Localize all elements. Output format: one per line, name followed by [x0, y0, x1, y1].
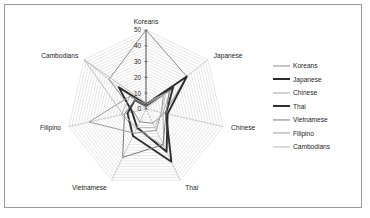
legend-item-filipino[interactable]: Filipino	[273, 128, 357, 139]
axis-label-koreans: Koreans	[134, 18, 159, 25]
radar-chart-area: 01020304050 KoreansJapaneseChineseThaiVi…	[5, 5, 287, 207]
legend-item-cambodians[interactable]: Cambodians	[273, 141, 357, 152]
radar-chart-svg: 01020304050 KoreansJapaneseChineseThaiVi…	[5, 5, 287, 207]
legend-item-label: Filipino	[293, 129, 314, 138]
axis-label-filipino: Filipino	[40, 124, 61, 132]
legend-line-icon	[273, 142, 290, 152]
legend-line-icon	[273, 88, 290, 98]
legend-item-thai[interactable]: Thai	[273, 101, 357, 112]
legend-item-label: Cambodians	[293, 142, 330, 151]
radial-tick-label: 40	[134, 42, 142, 49]
legend-item-vietnamese[interactable]: Vietnamese	[273, 114, 357, 125]
axis-label-cambodians: Cambodians	[41, 52, 79, 59]
legend-line-icon	[273, 61, 290, 71]
radial-tick-label: 50	[134, 26, 142, 33]
legend-line-icon	[273, 115, 290, 125]
legend-line-icon	[273, 101, 290, 111]
radial-tick-label: 10	[134, 90, 142, 97]
radial-tick-label: 20	[134, 74, 142, 81]
legend-item-label: Koreans	[293, 61, 318, 70]
screenshot-root: 01020304050 KoreansJapaneseChineseThaiVi…	[0, 0, 370, 218]
axis-label-thai: Thai	[185, 184, 198, 191]
legend-item-label: Japanese	[293, 75, 322, 84]
radial-tick-label: 30	[134, 58, 142, 65]
axis-label-chinese: Chinese	[231, 124, 256, 131]
legend-item-koreans[interactable]: Koreans	[273, 60, 357, 71]
axis-label-japanese: Japanese	[214, 52, 243, 60]
legend-item-chinese[interactable]: Chinese	[273, 87, 357, 98]
legend-item-label: Vietnamese	[293, 115, 328, 124]
legend-line-icon	[273, 128, 290, 138]
legend-item-label: Chinese	[293, 88, 317, 97]
chart-frame: 01020304050 KoreansJapaneseChineseThaiVi…	[4, 4, 362, 208]
chart-legend: KoreansJapaneseChineseThaiVietnameseFili…	[273, 60, 357, 152]
legend-item-japanese[interactable]: Japanese	[273, 74, 357, 85]
legend-line-icon	[273, 74, 290, 84]
legend-item-label: Thai	[293, 102, 306, 111]
axis-label-vietnamese: Vietnamese	[72, 184, 107, 191]
radial-tick-label: 0	[137, 105, 141, 112]
